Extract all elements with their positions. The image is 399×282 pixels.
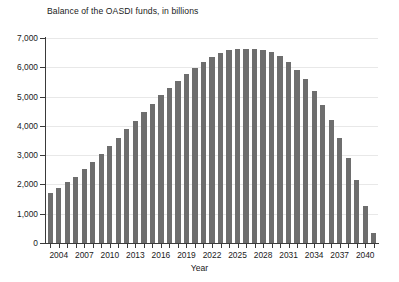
x-tick-mark: [229, 244, 230, 248]
bar[interactable]: [56, 188, 61, 243]
bars-series: [46, 38, 378, 243]
bar[interactable]: [294, 70, 299, 243]
bar[interactable]: [90, 162, 95, 243]
x-tick-mark: [212, 244, 213, 248]
bar[interactable]: [167, 88, 172, 243]
x-tick-label: 2034: [305, 250, 324, 260]
x-tick-mark: [323, 244, 324, 248]
x-tick-mark: [93, 244, 94, 248]
bar[interactable]: [141, 112, 146, 243]
y-tick-label: 1,000: [17, 209, 38, 219]
y-tick-mark: [40, 67, 45, 68]
bar[interactable]: [320, 105, 325, 243]
x-tick-mark: [186, 244, 187, 248]
y-tick-label: 0: [33, 238, 38, 248]
chart-title: Balance of the OASDI funds, in billions: [47, 6, 199, 16]
bar[interactable]: [133, 121, 138, 243]
x-tick-mark: [152, 244, 153, 248]
x-tick-mark: [221, 244, 222, 248]
y-tick-label: 6,000: [17, 62, 38, 72]
x-tick-mark: [169, 244, 170, 248]
bar[interactable]: [337, 138, 342, 243]
y-tick-label: 4,000: [17, 121, 38, 131]
x-tick-mark: [101, 244, 102, 248]
x-tick-label: 2022: [203, 250, 222, 260]
x-tick-mark: [135, 244, 136, 248]
x-tick-label: 2010: [101, 250, 120, 260]
bar[interactable]: [82, 169, 87, 243]
x-tick-label: 2025: [228, 250, 247, 260]
x-tick-label: 2040: [356, 250, 375, 260]
x-tick-mark: [365, 244, 366, 248]
bar[interactable]: [252, 49, 257, 243]
x-tick-mark: [331, 244, 332, 248]
bar[interactable]: [73, 177, 78, 243]
x-tick-mark: [263, 244, 264, 248]
bar[interactable]: [48, 193, 53, 243]
bar[interactable]: [346, 158, 351, 243]
y-tick-mark: [40, 184, 45, 185]
bar[interactable]: [277, 56, 282, 243]
bar[interactable]: [175, 81, 180, 243]
bar[interactable]: [354, 180, 359, 243]
x-tick-mark: [161, 244, 162, 248]
x-tick-mark: [297, 244, 298, 248]
bar[interactable]: [371, 233, 376, 243]
x-tick-mark: [59, 244, 60, 248]
x-tick-mark: [255, 244, 256, 248]
x-tick-mark: [280, 244, 281, 248]
bar[interactable]: [124, 129, 129, 244]
x-tick-mark: [67, 244, 68, 248]
bar[interactable]: [192, 68, 197, 243]
bar[interactable]: [269, 52, 274, 243]
y-tick-mark: [40, 155, 45, 156]
x-tick-mark: [374, 244, 375, 248]
y-tick-label: 2,000: [17, 179, 38, 189]
x-tick-mark: [195, 244, 196, 248]
x-tick-label: 2016: [152, 250, 171, 260]
x-tick-mark: [348, 244, 349, 248]
x-tick-mark: [203, 244, 204, 248]
x-tick-label: 2019: [177, 250, 196, 260]
x-tick-label: 2007: [75, 250, 94, 260]
x-tick-label: 2028: [254, 250, 273, 260]
bar[interactable]: [201, 62, 206, 243]
x-tick-mark: [127, 244, 128, 248]
x-tick-mark: [118, 244, 119, 248]
x-tick-mark: [144, 244, 145, 248]
y-tick-label: 3,000: [17, 150, 38, 160]
x-tick-mark: [110, 244, 111, 248]
x-tick-mark: [178, 244, 179, 248]
y-tick-mark: [40, 126, 45, 127]
bar[interactable]: [65, 182, 70, 243]
bar[interactable]: [243, 49, 248, 243]
bar[interactable]: [226, 50, 231, 243]
bar[interactable]: [107, 146, 112, 243]
bar[interactable]: [363, 206, 368, 243]
bar[interactable]: [158, 95, 163, 243]
y-tick-label: 5,000: [17, 92, 38, 102]
y-axis-tick-labels: 7,0006,0005,0004,0003,0002,0001,0000: [0, 0, 38, 282]
y-tick-mark: [40, 38, 45, 39]
x-tick-mark: [246, 244, 247, 248]
x-tick-label: 2004: [49, 250, 68, 260]
bar[interactable]: [235, 49, 240, 243]
x-axis-title: Year: [0, 263, 399, 273]
y-tick-mark: [40, 97, 45, 98]
bar[interactable]: [209, 57, 214, 243]
bar[interactable]: [150, 104, 155, 243]
y-tick-mark: [40, 214, 45, 215]
bar[interactable]: [303, 79, 308, 243]
x-tick-mark: [238, 244, 239, 248]
bar[interactable]: [184, 74, 189, 243]
bar[interactable]: [312, 91, 317, 243]
bar[interactable]: [329, 120, 334, 243]
bar[interactable]: [286, 62, 291, 243]
bar[interactable]: [260, 50, 265, 243]
bar[interactable]: [116, 138, 121, 243]
bar[interactable]: [99, 154, 104, 243]
x-tick-mark: [84, 244, 85, 248]
x-tick-mark: [50, 244, 51, 248]
bar[interactable]: [218, 53, 223, 243]
x-tick-label: 2037: [330, 250, 349, 260]
